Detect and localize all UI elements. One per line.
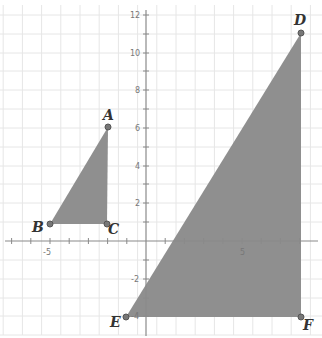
point-e [123,314,129,320]
vertex-label-e: E [109,314,121,330]
point-a [105,124,111,130]
y-tick-label-12: 12 [130,11,140,20]
y-tick-label-4: 4 [135,162,140,171]
vertex-label-c: C [108,221,119,237]
y-tick-label-neg2: -2 [131,275,139,284]
y-tick-label-2: 2 [135,199,140,208]
y-tick-label-8: 8 [135,86,140,95]
triangle-def [126,33,301,317]
y-tick-label-neg4: -4 [131,312,139,321]
point-d [298,30,304,36]
x-tick-label-5: 5 [240,248,245,257]
y-tick-label-10: 10 [130,49,140,58]
coordinate-plane: -5 5 12 10 8 6 4 2 -2 -4 A B C D E F [0,0,322,338]
x-tick-label-neg5: -5 [43,248,51,257]
vertex-label-f: F [302,317,314,333]
y-tick-label-6: 6 [135,124,140,133]
vertex-label-b: B [31,219,44,235]
vertex-label-d: D [293,12,307,28]
vertex-label-a: A [101,107,114,123]
triangle-abc [50,127,108,224]
point-b [47,221,53,227]
